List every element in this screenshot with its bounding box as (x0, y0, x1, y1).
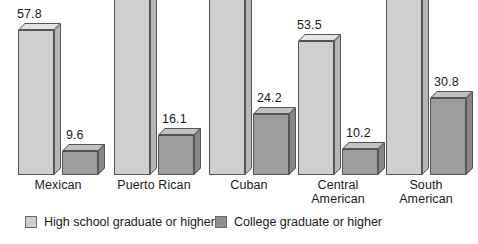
bar-side-face (422, 0, 429, 175)
bar-front-face (298, 41, 334, 175)
bar-side-face (54, 23, 61, 175)
bar-front-face (430, 98, 466, 175)
value-label-south-american-college: 30.8 (434, 76, 459, 89)
bar-front-face (209, 0, 245, 175)
bar-front-face (18, 30, 54, 175)
category-label-cuban: Cuban (205, 178, 293, 192)
category-label-central-american: Central American (294, 178, 382, 206)
bar-group-mexican: 57.8 9.6 Mexican (14, 0, 102, 180)
bar-group-central-american: 53.5 10.2 Central American (294, 0, 382, 180)
bar-front-face (114, 0, 150, 175)
bar-central-american-college[interactable] (342, 149, 378, 175)
bar-front-face (158, 135, 194, 175)
bar-south-american-college[interactable] (430, 98, 466, 175)
bar-front-face (342, 149, 378, 175)
value-label-puerto-rican-college: 16.1 (162, 113, 187, 126)
legend-label-high-school: High school graduate or higher (44, 214, 215, 230)
value-label-central-american-college: 10.2 (346, 127, 371, 140)
value-label-central-american-highschool: 53.5 (297, 19, 322, 32)
bar-side-face (466, 91, 473, 175)
plot-area: 57.8 9.6 Mexican 75.1 16.1 (0, 0, 478, 180)
category-label-puerto-rican: Puerto Rican (108, 178, 200, 192)
bar-group-south-american: 84.4 30.8 South American (382, 0, 470, 180)
legend-swatch-light-icon (25, 216, 37, 228)
legend-swatch-dark-icon (215, 216, 227, 228)
bar-south-american-highschool[interactable] (386, 0, 422, 175)
category-label-mexican: Mexican (14, 178, 102, 192)
bar-side-face (150, 0, 157, 175)
bar-front-face (253, 114, 289, 175)
bar-cuban-highschool[interactable] (209, 0, 245, 175)
bar-group-cuban: 76.9 24.2 Cuban (205, 0, 293, 180)
chart-legend: High school graduate or higher College g… (0, 214, 478, 236)
bar-chart: 57.8 9.6 Mexican 75.1 16.1 (0, 0, 478, 244)
value-label-mexican-college: 9.6 (66, 129, 84, 142)
bar-side-face (334, 34, 341, 175)
bar-front-face (386, 0, 422, 175)
bar-cuban-college[interactable] (253, 114, 289, 175)
bar-side-face (194, 128, 201, 175)
legend-item-high-school[interactable]: High school graduate or higher (25, 214, 215, 230)
bar-puerto-rican-highschool[interactable] (114, 0, 150, 175)
bar-puerto-rican-college[interactable] (158, 135, 194, 175)
bar-mexican-highschool[interactable] (18, 30, 54, 175)
bar-front-face (62, 151, 98, 175)
value-label-cuban-college: 24.2 (257, 92, 282, 105)
bar-central-american-highschool[interactable] (298, 41, 334, 175)
bar-side-face (98, 144, 105, 175)
value-label-mexican-highschool: 57.8 (17, 8, 42, 21)
legend-item-college[interactable]: College graduate or higher (215, 214, 382, 230)
bar-mexican-college[interactable] (62, 151, 98, 175)
bar-group-puerto-rican: 75.1 16.1 Puerto Rican (110, 0, 198, 180)
legend-label-college: College graduate or higher (234, 214, 382, 230)
bar-side-face (245, 0, 252, 175)
category-label-south-american: South American (382, 178, 470, 206)
